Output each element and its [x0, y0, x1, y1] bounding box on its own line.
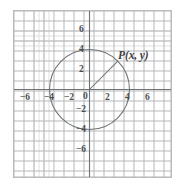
y-tick-label-pos6: 6 [79, 25, 84, 35]
point-label: P(x, y) [118, 50, 149, 62]
x-tick-label-pos6: 6 [145, 93, 150, 103]
x-tick-label-neg2: −2 [64, 93, 74, 103]
x-tick-label-neg4: −4 [44, 93, 54, 103]
y-tick-label-neg6: −6 [76, 145, 86, 155]
coordinate-plane-figure: −6 −4 −2 0 2 4 6 6 4 2 −2 −4 −6 P(x, y) [0, 0, 181, 187]
y-tick-label-neg2: −2 [76, 105, 86, 115]
x-tick-label-pos4: 4 [125, 93, 130, 103]
x-tick-label-neg6: −6 [20, 93, 30, 103]
y-tick-label-pos2: 2 [79, 65, 84, 75]
y-tick-label-neg4: −4 [76, 125, 86, 135]
y-tick-label-pos4: 4 [79, 45, 84, 55]
radius-segment [90, 61, 118, 89]
x-tick-label-pos2: 2 [105, 93, 110, 103]
origin-label: 0 [83, 92, 88, 102]
